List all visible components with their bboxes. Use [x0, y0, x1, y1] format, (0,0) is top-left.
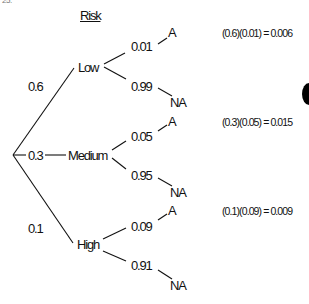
prob-low: 0.6 [28, 80, 42, 93]
outcome-high-na: NA [170, 279, 186, 292]
edge-low-a-2 [158, 38, 167, 44]
prob-low-a: 0.01 [131, 40, 152, 53]
outcome-low-na: NA [170, 96, 186, 109]
node-high: High [77, 238, 99, 251]
edge-high-na-1 [103, 251, 126, 261]
edge-high-a-1 [103, 228, 126, 239]
calc-high: (0.1)(0.09) = 0.009 [222, 206, 292, 217]
prob-med-a: 0.05 [131, 130, 152, 143]
edge-med-a-1 [112, 141, 126, 150]
outcome-high-a: A [168, 204, 175, 217]
outcome-low-a: A [168, 26, 175, 39]
prob-med-na: 0.95 [131, 169, 152, 182]
edge-med-a-2 [158, 125, 167, 131]
calc-medium: (0.3)(0.05) = 0.015 [222, 117, 292, 128]
edge-low-na-1 [104, 67, 126, 79]
prob-high-a: 0.09 [131, 220, 152, 233]
prob-high: 0.1 [28, 222, 42, 235]
prob-low-na: 0.99 [131, 80, 152, 93]
calc-low: (0.6)(0.01) = 0.006 [222, 28, 292, 39]
prob-medium: 0.3 [28, 149, 42, 162]
node-low: Low [78, 61, 98, 74]
prob-high-na: 0.91 [131, 259, 152, 272]
edge-low-a-1 [104, 53, 125, 64]
outcome-med-na: NA [170, 186, 186, 199]
edge-high-a-2 [158, 214, 167, 220]
node-medium: Medium [68, 149, 107, 162]
edge-root-high [13, 155, 73, 243]
outcome-med-a: A [168, 115, 175, 128]
edge-med-na-1 [112, 158, 126, 169]
tree-lines [0, 0, 309, 304]
ink-blot [302, 83, 309, 105]
edge-root-low [13, 68, 74, 155]
tree-title: Risk [80, 9, 100, 22]
